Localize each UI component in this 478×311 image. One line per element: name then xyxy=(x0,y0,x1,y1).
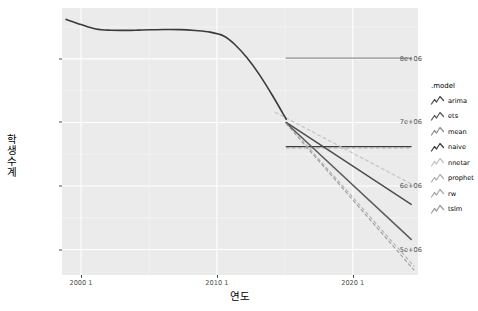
legend-item-prophet[interactable]: prophet xyxy=(430,171,478,187)
x-tick-mark xyxy=(81,275,82,278)
legend-label-mean: mean xyxy=(448,128,467,136)
legend-label-tslm: tslm xyxy=(448,205,462,213)
y-tick-mark xyxy=(59,58,62,59)
x-tick-label: 2000 1 xyxy=(69,279,92,287)
forecast-line-arima xyxy=(286,122,411,204)
x-tick-label: 2020 1 xyxy=(341,279,364,287)
legend-key-icon-rw xyxy=(430,186,445,201)
history-line xyxy=(66,19,286,119)
x-tick-mark xyxy=(217,275,218,278)
forecast-line-tslm xyxy=(286,124,414,270)
y-tick-mark xyxy=(59,186,62,187)
chart-root: 8e+067e+066e+065e+06 2000 12010 12020 1 … xyxy=(0,0,478,311)
legend-item-tslm[interactable]: tslm xyxy=(430,202,478,218)
legend-label-rw: rw xyxy=(448,190,456,198)
legend-key-icon-naive xyxy=(430,140,445,155)
plot-panel xyxy=(62,8,418,275)
legend-title: .model xyxy=(430,82,478,90)
legend-key-icon-prophet xyxy=(430,171,445,186)
legend-item-rw[interactable]: rw xyxy=(430,186,478,202)
legend: .model arimaetsmeannaivennetarprophetrwt… xyxy=(430,82,478,217)
legend-key-icon-nnetar xyxy=(430,155,445,170)
forecast-line-nnetar xyxy=(275,112,414,185)
x-tick-mark xyxy=(353,275,354,278)
x-tick-label: 2010 1 xyxy=(205,279,228,287)
legend-label-prophet: prophet xyxy=(448,174,474,182)
legend-label-arima: arima xyxy=(448,97,467,105)
y-tick-mark xyxy=(59,249,62,250)
legend-label-naive: naive xyxy=(448,143,466,151)
legend-key-icon-mean xyxy=(430,124,445,139)
y-tick-label: 7e+06 xyxy=(400,118,422,126)
legend-item-arima[interactable]: arima xyxy=(430,93,478,109)
y-tick-label: 5e+06 xyxy=(400,246,422,254)
y-axis-title: 학생수계 xyxy=(3,134,17,178)
legend-label-ets: ets xyxy=(448,112,458,120)
legend-item-mean[interactable]: mean xyxy=(430,124,478,140)
legend-label-nnetar: nnetar xyxy=(448,159,470,167)
legend-item-ets[interactable]: ets xyxy=(430,109,478,125)
y-tick-label: 8e+06 xyxy=(400,55,422,63)
legend-key-icon-ets xyxy=(430,109,445,124)
y-tick-label: 6e+06 xyxy=(400,182,422,190)
legend-key-icon-arima xyxy=(430,93,445,108)
y-tick-mark xyxy=(59,122,62,123)
legend-item-naive[interactable]: naive xyxy=(430,140,478,156)
series-layer xyxy=(62,8,418,275)
legend-item-nnetar[interactable]: nnetar xyxy=(430,155,478,171)
legend-entries: arimaetsmeannaivennetarprophetrwtslm xyxy=(430,93,478,217)
x-axis-title: 연도 xyxy=(62,288,418,303)
legend-key-icon-tslm xyxy=(430,202,445,217)
forecast-line-ets xyxy=(286,123,411,239)
